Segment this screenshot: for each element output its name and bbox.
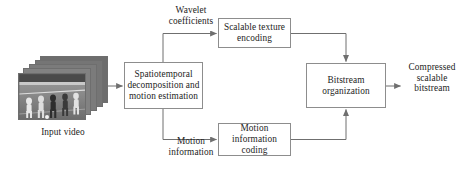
input-video-frame-stack bbox=[18, 56, 116, 122]
caption-input-video: Input video bbox=[8, 127, 118, 138]
node-bitstream-organization[interactable]: Bitstream organization bbox=[306, 63, 386, 108]
edge-spatiotemporal-to-texture bbox=[163, 34, 217, 63]
video-scene-soccer bbox=[19, 74, 86, 120]
edge-texture-to-bitstream bbox=[291, 34, 346, 62]
edge-spatiotemporal-to-motioncoding bbox=[163, 109, 217, 140]
edge-motioncoding-to-bitstream bbox=[291, 110, 346, 140]
edge-label-compressed-scalable-bitstream: Compressed scalable bitstream bbox=[396, 62, 468, 94]
node-bitstream-label: Bitstream organization bbox=[307, 75, 385, 97]
film-frame-front bbox=[18, 73, 86, 120]
node-spatiotemporal-label: Spatiotemporal decomposition and motion … bbox=[125, 69, 202, 102]
edge-label-motion-information: Motion information bbox=[150, 136, 232, 157]
edge-label-wavelet-coefficients: Wavelet coefficients bbox=[150, 5, 232, 26]
diagram-canvas: Spatiotemporal decomposition and motion … bbox=[0, 0, 470, 174]
node-spatiotemporal-decomposition[interactable]: Spatiotemporal decomposition and motion … bbox=[124, 62, 203, 109]
